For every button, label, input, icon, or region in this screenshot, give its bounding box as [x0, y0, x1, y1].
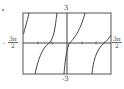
y-min-label: -3: [62, 76, 69, 83]
x-max-label: 3π 2: [112, 36, 122, 49]
x-max-denominator: 2: [112, 43, 122, 49]
x-min-sign: -: [3, 40, 5, 47]
curve-branch-1: [24, 13, 30, 34]
x-min-label: 3π 2: [8, 36, 18, 49]
curve-branch-4: [92, 35, 111, 74]
x-min-denominator: 2: [8, 43, 18, 49]
y-max-label: 3: [64, 5, 68, 12]
